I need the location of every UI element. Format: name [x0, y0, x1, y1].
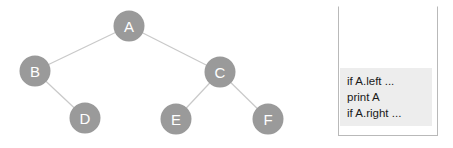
code-line: print A	[347, 89, 432, 105]
tree-node-e: E	[161, 104, 192, 135]
tree-canvas: ABCDEF	[0, 0, 330, 148]
tree-node-label-e: E	[171, 111, 181, 128]
tree-node-group: ABCDEF	[20, 11, 284, 135]
tree-node-label-b: B	[30, 63, 40, 80]
binary-tree-diagram: ABCDEF	[0, 0, 330, 148]
tree-node-b: B	[20, 56, 51, 87]
figure-root: ABCDEF if A.left ... print A if A.right …	[0, 0, 453, 148]
code-panel: if A.left ... print A if A.right ...	[338, 6, 438, 136]
tree-node-label-a: A	[124, 18, 134, 35]
tree-node-d: D	[70, 103, 101, 134]
tree-node-c: C	[205, 57, 236, 88]
tree-node-label-c: C	[215, 64, 226, 81]
tree-node-f: F	[253, 104, 284, 135]
tree-node-label-d: D	[80, 110, 91, 127]
tree-node-label-f: F	[263, 111, 272, 128]
tree-node-a: A	[114, 11, 145, 42]
code-highlight-block: if A.left ... print A if A.right ...	[340, 68, 432, 126]
code-line: if A.left ...	[347, 73, 432, 89]
tree-edge-a-b	[35, 26, 129, 71]
code-line: if A.right ...	[347, 105, 432, 121]
